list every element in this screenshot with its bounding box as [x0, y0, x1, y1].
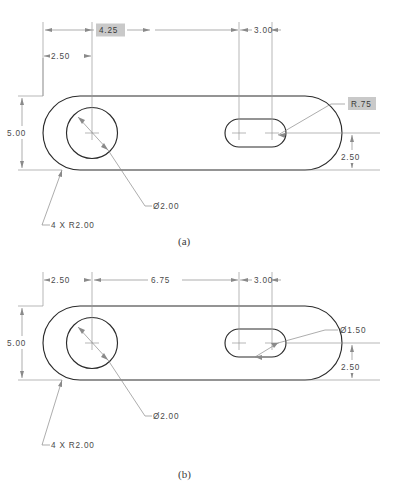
- dim-corner-radius-label-b: 4 X R2.00: [51, 441, 95, 450]
- dim-3-00-label-b: 3.00: [254, 276, 273, 285]
- dim-hole-dia-label-b: Ø2.00: [153, 412, 179, 421]
- dim-5-00-group-a: 5.00: [6, 98, 34, 168]
- dim-5-00-group-b: 5.00: [6, 308, 34, 378]
- figure-caption-b: (b): [178, 468, 191, 481]
- dim-5-00-label: 5.00: [7, 129, 26, 138]
- figure-b-drawing: 2.50 6.75 3.00 5.00: [0, 250, 397, 496]
- dim-corner-radius-label: 4 X R2.00: [51, 221, 95, 230]
- dim-6-75-group-b: 6.75: [94, 276, 238, 285]
- center-marks-b: [85, 336, 279, 350]
- dim-2-50-right-label-b: 2.50: [341, 363, 360, 372]
- dim-2-50-top-group-a: 2.50: [44, 49, 91, 62]
- dim-2-50-right-group-b: 2.50: [340, 345, 368, 378]
- dim-2-50-top-group-b: 2.50: [44, 273, 91, 286]
- dim-4-25-label: 4.25: [99, 26, 118, 35]
- dim-hole-dia-label: Ø2.00: [153, 202, 179, 211]
- figure-a-drawing: 4.25 3.00 2.50 5.00: [0, 0, 397, 250]
- dim-2-50-right-label: 2.50: [341, 153, 360, 162]
- dim-5-00-label-b: 5.00: [7, 339, 26, 348]
- dim-3-00-label: 3.00: [254, 26, 273, 35]
- dim-3-00-group-b: 3.00: [240, 276, 281, 285]
- dim-3-00-group-a: 3.00: [155, 26, 281, 35]
- dim-2-50-top-label: 2.50: [51, 52, 70, 61]
- center-marks-a: [85, 126, 279, 140]
- dim-slot-dia-label: Ø1.50: [340, 326, 366, 335]
- dim-hole-dia-group-a: Ø2.00: [78, 117, 179, 211]
- dim-hole-dia-group-b: Ø2.00: [78, 327, 179, 421]
- dim-2-50-right-group-a: 2.50: [340, 135, 368, 168]
- figure-caption-a: (a): [178, 235, 191, 248]
- dim-corner-radius-group-b: 4 X R2.00: [42, 380, 95, 450]
- dim-corner-radius-group-a: 4 X R2.00: [42, 170, 95, 230]
- dim-4-25-group-a: 4.25: [45, 24, 150, 37]
- dim-slot-radius-label: R.75: [351, 100, 372, 109]
- dim-6-75-label: 6.75: [151, 276, 170, 285]
- drawing-sheet: 4.25 3.00 2.50 5.00: [0, 0, 397, 496]
- dim-2-50-top-label-b: 2.50: [51, 276, 70, 285]
